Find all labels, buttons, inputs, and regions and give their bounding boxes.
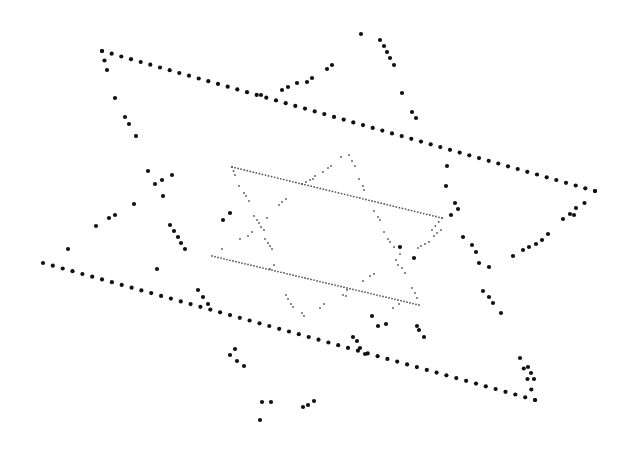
right-edge-dot <box>582 201 586 205</box>
inner-top-edge-dot <box>310 185 312 187</box>
scatter-dot <box>179 241 183 245</box>
scatter-dot <box>526 365 530 369</box>
inner-top-edge-dot <box>383 203 385 205</box>
bottom-edge-dot <box>297 332 301 336</box>
scatter-dot <box>417 328 421 332</box>
inner-left-edge-dot <box>231 166 233 168</box>
top-edge-dot <box>380 129 384 133</box>
inner-top-edge-dot <box>271 176 273 178</box>
top-edge-dot <box>564 181 568 185</box>
inner-top-edge-dot <box>344 193 346 195</box>
inner-top-edge-dot <box>249 171 251 173</box>
scatter-dot <box>303 315 305 317</box>
top-edge-dot <box>467 153 471 157</box>
scatter-dot <box>306 403 310 407</box>
top-edge-dot <box>371 126 375 130</box>
scatter-dot <box>546 232 550 236</box>
scatter-dot <box>221 218 225 222</box>
inner-bottom-edge-dot <box>265 268 267 270</box>
scatter-dot <box>161 194 165 198</box>
scatter-dot <box>269 245 271 247</box>
inner-top-edge-dot <box>386 204 388 206</box>
inner-top-edge-dot <box>429 214 431 216</box>
top-edge-dot <box>177 71 181 75</box>
bottom-edge-dot <box>70 269 74 273</box>
inner-top-edge-dot <box>313 186 315 188</box>
scatter-dot <box>487 295 491 299</box>
scatter-dot <box>373 273 375 275</box>
inner-right-edge-dot <box>438 221 440 223</box>
inner-bottom-edge-dot <box>223 258 225 260</box>
inner-top-edge-dot <box>353 196 355 198</box>
scatter-dot <box>477 261 481 265</box>
bottom-edge-dot <box>464 379 468 383</box>
scatter-dot <box>127 122 131 126</box>
inner-bottom-edge-dot <box>292 274 294 276</box>
inner-bottom-edge-dot <box>361 291 363 293</box>
inner-bottom-edge-dot <box>343 286 345 288</box>
scatter-dot <box>370 314 374 318</box>
scatter-dot <box>256 219 258 221</box>
top-edge-dot <box>206 79 210 83</box>
inner-top-edge-dot <box>268 175 270 177</box>
scatter-dot <box>330 165 332 167</box>
scatter-dot <box>440 229 442 231</box>
inner-bottom-edge-dot <box>286 273 288 275</box>
scatter-dot <box>422 335 426 339</box>
scatter-dot <box>345 295 347 297</box>
scatter-dot <box>415 324 419 328</box>
inner-bottom-edge-dot <box>397 299 399 301</box>
inner-top-edge-dot <box>438 216 440 218</box>
scatter-dot <box>461 235 465 239</box>
scatter-dot <box>325 67 329 71</box>
scatter-dot <box>146 169 150 173</box>
inner-bottom-edge-dot <box>346 287 348 289</box>
scatter-dot <box>242 364 246 368</box>
scatter-dot <box>160 178 164 182</box>
inner-top-edge-dot <box>365 199 367 201</box>
top-edge-dot <box>129 57 133 61</box>
inner-bottom-edge-dot <box>256 266 258 268</box>
scatter-dot <box>398 303 400 305</box>
scatter-dot <box>253 215 255 217</box>
scatter-dot <box>280 88 284 92</box>
scatter-dot <box>470 243 474 247</box>
inner-bottom-edge-dot <box>238 262 240 264</box>
top-edge-dot <box>487 159 491 163</box>
top-left-edge-dot <box>100 49 104 53</box>
top-edge-dot <box>293 104 297 108</box>
inner-bottom-edge-dot <box>352 289 354 291</box>
bottom-edge-dot <box>385 357 389 361</box>
scatter-dot <box>340 156 342 158</box>
scatter-dot <box>568 212 572 216</box>
inner-bottom-edge-dot <box>367 292 369 294</box>
scatter-dot <box>363 189 365 191</box>
inner-bottom-edge-dot <box>244 263 246 265</box>
scatter-dot <box>273 264 275 266</box>
scatter-dot <box>383 231 385 233</box>
scatter-dot <box>201 295 205 299</box>
top-edge-dot <box>516 167 520 171</box>
scatter-dot <box>424 243 426 245</box>
scatter-dot <box>309 179 311 181</box>
inner-top-edge-dot <box>417 211 419 213</box>
bottom-edge-dot <box>139 288 143 292</box>
inner-bottom-edge-dot <box>226 259 228 261</box>
scatter-dot <box>392 63 396 67</box>
top-edge-dot <box>506 164 510 168</box>
scatter-dot <box>534 242 538 246</box>
scatter-dot <box>228 211 232 215</box>
top-edge-dot <box>554 178 558 182</box>
scatter-dot <box>511 254 515 258</box>
bottom-edge-dot <box>503 390 507 394</box>
scatter-dot <box>271 248 273 250</box>
scatter-dot <box>155 267 159 271</box>
bottom-edge-dot <box>248 318 252 322</box>
scatter-dot <box>428 241 430 243</box>
scatter-dot <box>248 200 250 202</box>
scatter-dot <box>235 359 239 363</box>
scatter-dot <box>445 164 449 168</box>
bottom-edge-dot <box>484 384 488 388</box>
scatter-dot <box>228 353 232 357</box>
bottom-edge-dot <box>90 275 94 279</box>
